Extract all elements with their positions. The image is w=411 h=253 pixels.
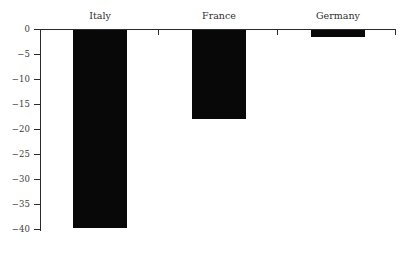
y-tick-mark xyxy=(34,179,40,180)
y-tick-mark xyxy=(34,104,40,105)
y-axis-tick-label: 0 xyxy=(24,25,30,34)
x-tick-mark xyxy=(158,30,159,35)
y-axis-tick-label: −40 xyxy=(12,225,30,234)
bar-germany xyxy=(311,30,365,37)
category-label-italy: Italy xyxy=(73,10,127,21)
y-axis-tick-label: −5 xyxy=(17,50,30,59)
y-tick-mark xyxy=(34,229,40,230)
y-axis-tick-label: −10 xyxy=(12,75,30,84)
y-axis-tick-label: −25 xyxy=(12,150,30,159)
bar-france xyxy=(192,30,246,119)
y-tick-mark xyxy=(34,154,40,155)
y-tick-mark xyxy=(34,29,40,30)
x-tick-mark xyxy=(395,30,396,35)
y-axis-tick-label: −15 xyxy=(12,100,30,109)
y-tick-mark xyxy=(34,204,40,205)
y-axis-tick-label: −35 xyxy=(12,200,30,209)
x-tick-mark xyxy=(277,30,278,35)
bar-italy xyxy=(73,30,127,228)
y-axis-tick-label: −20 xyxy=(12,125,30,134)
category-label-germany: Germany xyxy=(311,10,365,21)
y-tick-mark xyxy=(34,54,40,55)
y-tick-mark xyxy=(34,79,40,80)
category-label-france: France xyxy=(192,10,246,21)
y-axis-line xyxy=(40,29,41,231)
y-tick-mark xyxy=(34,129,40,130)
y-axis-tick-label: −30 xyxy=(12,175,30,184)
bar-chart: 0 −5 −10 −15 −20 −25 −30 −35 −40 Italy F… xyxy=(0,0,411,253)
